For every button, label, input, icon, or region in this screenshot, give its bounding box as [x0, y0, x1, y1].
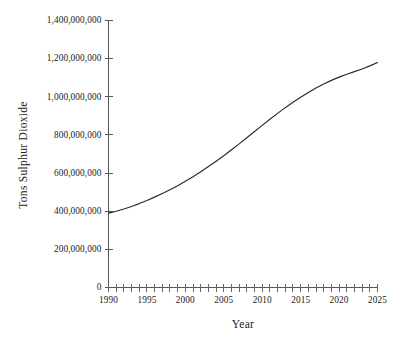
- sulphur-dioxide-line-chart: 1,400,000,0001,200,000,0001,000,000,0008…: [0, 0, 408, 344]
- x-axis-title: Year: [108, 318, 378, 330]
- x-axis-tick-label: 2010: [242, 295, 282, 305]
- x-axis-tick-label: 1990: [89, 295, 129, 305]
- y-axis-title-text: Tons Sulphur Dioxide: [17, 101, 29, 208]
- x-axis-tick-label: 2000: [165, 295, 205, 305]
- x-axis-tick-label: 1995: [127, 295, 167, 305]
- x-axis-tick-label: 2005: [204, 295, 244, 305]
- y-axis-title: Tons Sulphur Dioxide: [12, 60, 34, 250]
- y-axis-tick-label: 0: [8, 282, 102, 292]
- x-axis-tick-label: 2015: [281, 295, 321, 305]
- data-series-line: [109, 62, 378, 213]
- y-axis-tick-label: 1,400,000,000: [8, 15, 102, 25]
- x-axis-tick-label: 2025: [358, 295, 398, 305]
- x-axis-tick-label: 2020: [319, 295, 359, 305]
